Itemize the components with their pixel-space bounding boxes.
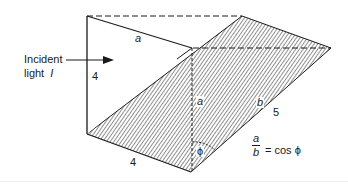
slant-label-b: b <box>256 97 264 108</box>
bottom-label-4: 4 <box>130 157 136 168</box>
equation-rhs: = cos ϕ <box>265 145 301 156</box>
equation-fraction: a b <box>252 133 260 158</box>
diagram-svg <box>0 0 348 186</box>
front-side-label-4: 4 <box>92 71 98 82</box>
angle-phi-label: ϕ <box>196 146 204 157</box>
prism-diagram: Incident light I a 4 4 a b 5 ϕ a b = cos… <box>0 0 348 186</box>
hypotenuse-label-a: a <box>135 33 141 44</box>
vertical-label-a: a <box>196 96 204 107</box>
incident-light-word: light <box>24 67 44 79</box>
equation-denominator: b <box>253 147 259 158</box>
slant-label-5: 5 <box>273 107 279 118</box>
incident-label-line2: light I <box>24 68 53 79</box>
incident-symbol: I <box>50 67 53 79</box>
bottom-divider <box>0 181 348 182</box>
equation-numerator: a <box>253 133 259 144</box>
incident-label-line1: Incident <box>24 54 63 65</box>
